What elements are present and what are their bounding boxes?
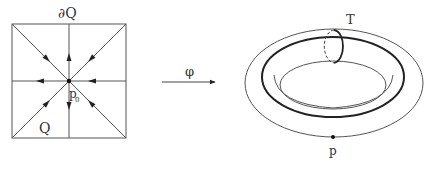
point-label: p	[329, 144, 337, 158]
meridian-back-dashed	[324, 30, 334, 63]
torus-hole-edge	[280, 61, 386, 109]
arrow-right-icon	[88, 79, 96, 84]
diagram-canvas: ∂Q Q p 0 φ T p	[0, 0, 433, 175]
arrow-up-icon	[67, 53, 72, 61]
meridian-front	[334, 30, 343, 63]
boundary-label: ∂Q	[58, 5, 77, 21]
center-label-subscript: 0	[75, 96, 79, 104]
region-label: Q	[39, 120, 50, 136]
center-point-p0	[67, 79, 71, 83]
point-p	[331, 135, 335, 139]
torus-outer-edge	[245, 29, 423, 137]
map-label: φ	[185, 64, 194, 79]
torus	[245, 29, 423, 137]
torus-inner-rim	[274, 75, 393, 108]
arrow-down-icon	[67, 102, 72, 110]
arrow-left-icon	[36, 79, 44, 84]
torus-label: T	[346, 12, 355, 27]
